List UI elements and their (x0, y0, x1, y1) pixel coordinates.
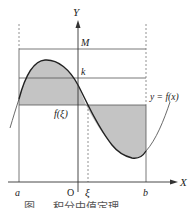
xi-label: ξ (85, 186, 90, 199)
k-label: k (81, 66, 86, 77)
caption-clip: 图 … 积分中值定理 (24, 200, 119, 208)
origin-label: O (67, 187, 74, 198)
a-label: a (15, 187, 20, 198)
mean-value-theorem-diagram: Y X O a b ξ M k f(ξ) y = f(x) 图 … 积分中值定理 (0, 0, 196, 208)
curve-left-tail (10, 99, 19, 128)
curve-right-tail (146, 102, 170, 151)
x-axis-label: X (179, 176, 188, 188)
x-axis-arrow-icon (170, 180, 178, 185)
curve-label: y = f(x) (149, 92, 179, 103)
b-label: b (143, 187, 148, 198)
figure-caption: 图 … 积分中值定理 (24, 200, 119, 208)
f-xi-label: f(ξ) (54, 108, 68, 120)
y-axis-label: Y (73, 6, 81, 18)
y-axis-arrow-icon (76, 20, 81, 28)
M-label: M (80, 37, 90, 48)
